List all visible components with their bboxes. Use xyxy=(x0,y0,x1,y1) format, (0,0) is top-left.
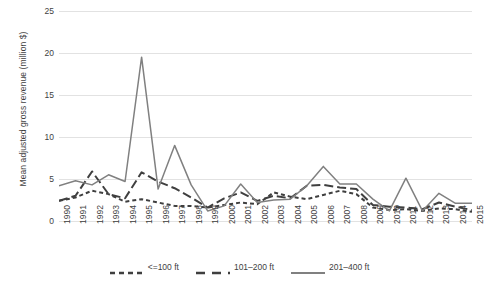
x-tick-label: 2001 xyxy=(244,205,253,224)
x-tick-label: 1990 xyxy=(63,205,72,224)
y-axis-tick-labels: 0510152025 xyxy=(28,0,54,283)
x-tick-label: 1991 xyxy=(79,205,88,224)
x-tick-label: 2014 xyxy=(459,205,468,224)
y-tick-label: 10 xyxy=(32,133,54,142)
x-tick-label: 2006 xyxy=(327,205,336,224)
x-tick-label: 2007 xyxy=(343,205,352,224)
legend-swatch xyxy=(196,263,230,271)
x-tick-label: 1993 xyxy=(112,205,121,224)
legend-label: <=100 ft xyxy=(148,262,179,272)
x-tick-label: 2015 xyxy=(476,205,485,224)
y-tick-label: 20 xyxy=(32,49,54,58)
x-tick-label: 1998 xyxy=(195,205,204,224)
x-tick-label: 1994 xyxy=(129,205,138,224)
legend-label: 201–400 ft xyxy=(329,262,369,272)
legend-label: 101–200 ft xyxy=(234,262,274,272)
chart-legend: <=100 ft101–200 ft201–400 ft xyxy=(0,262,479,272)
legend-swatch xyxy=(291,263,325,271)
x-tick-label: 2012 xyxy=(426,205,435,224)
x-tick-label: 2013 xyxy=(442,205,451,224)
plot-area xyxy=(59,11,472,221)
x-tick-label: 1996 xyxy=(162,205,171,224)
x-tick-label: 1997 xyxy=(178,205,187,224)
x-axis-tick-labels: 1990199119921993199419951996199719981999… xyxy=(59,224,472,258)
x-tick-label: 2004 xyxy=(294,205,303,224)
series-line xyxy=(59,57,472,211)
x-tick-label: 2009 xyxy=(376,205,385,224)
x-tick-label: 2003 xyxy=(277,205,286,224)
x-tick-label: 2008 xyxy=(360,205,369,224)
y-axis-title: Mean adjusted gross revenue (million $) xyxy=(18,4,28,214)
x-tick-label: 1999 xyxy=(211,205,220,224)
y-tick-label: 15 xyxy=(32,91,54,100)
x-tick-label: 2011 xyxy=(409,206,418,224)
x-tick-label: 1992 xyxy=(96,205,105,224)
legend-item[interactable]: <=100 ft xyxy=(110,262,179,272)
x-tick-label: 2010 xyxy=(393,205,402,224)
x-tick-label: 2002 xyxy=(261,205,270,224)
x-tick-label: 2005 xyxy=(310,205,319,224)
legend-swatch xyxy=(110,263,144,271)
y-tick-label: 0 xyxy=(32,217,54,226)
y-tick-label: 25 xyxy=(32,7,54,16)
legend-item[interactable]: 201–400 ft xyxy=(291,262,369,272)
x-tick-label: 2000 xyxy=(228,205,237,224)
y-tick-label: 5 xyxy=(32,175,54,184)
legend-item[interactable]: 101–200 ft xyxy=(196,262,274,272)
x-tick-label: 1995 xyxy=(145,205,154,224)
plot-lines xyxy=(59,11,472,221)
